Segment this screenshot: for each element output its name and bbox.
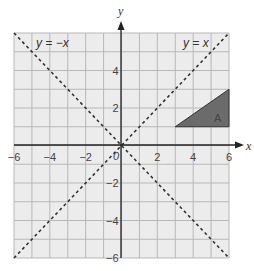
- x-axis-arrow-icon: [235, 142, 244, 149]
- equation-label-x: y = x: [182, 36, 210, 50]
- y-tick-label: −4: [106, 215, 119, 227]
- x-tick-label: 2: [154, 151, 160, 163]
- x-tick-label: −4: [44, 151, 57, 163]
- origin-label: 0: [113, 150, 120, 162]
- x-axis-label: x: [245, 139, 252, 153]
- y-tick-label: −6: [106, 252, 119, 264]
- triangle-label: A: [214, 112, 222, 124]
- coordinate-plane: A x y y = −x y = x 0 −6−4−224642−2−4−6: [0, 0, 254, 271]
- y-axis-label: y: [117, 4, 124, 18]
- x-tick-label: −2: [79, 151, 92, 163]
- x-tick-label: 4: [190, 151, 196, 163]
- y-tick-label: 4: [112, 65, 118, 77]
- x-tick-label: 6: [226, 151, 232, 163]
- y-axis-arrow-icon: [118, 21, 125, 30]
- equation-label-neg-x: y = −x: [35, 36, 70, 50]
- y-tick-label: −2: [106, 177, 119, 189]
- y-tick-label: 2: [112, 102, 118, 114]
- x-tick-label: −6: [8, 151, 21, 163]
